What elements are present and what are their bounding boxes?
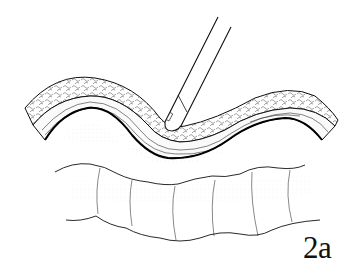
trocar-instrument <box>165 17 231 131</box>
bowel-loop <box>55 164 322 243</box>
illustration: 2a <box>0 0 359 276</box>
figure-label: 2a <box>303 232 331 263</box>
